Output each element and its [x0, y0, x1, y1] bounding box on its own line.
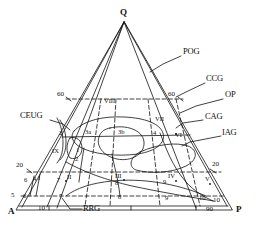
- internal-number-2a: 2: [59, 130, 62, 137]
- internal-number-7b: 7: [59, 193, 62, 200]
- internal-number-2b: 2: [75, 156, 78, 163]
- internal-number-10: 10: [199, 195, 206, 202]
- callout-label-ccg: CCG: [206, 74, 223, 83]
- callout-label-cag: CAG: [205, 112, 222, 121]
- internal-number-3a: 3a: [85, 129, 91, 136]
- leader-pog: [150, 56, 181, 72]
- internal-number-1: 1: [76, 147, 79, 154]
- field-ceug-envelope-2: [57, 118, 63, 163]
- field-label-iii: III: [115, 173, 122, 180]
- tick-label-left-20: 20: [16, 162, 23, 169]
- field-label-ii: II: [67, 174, 71, 181]
- gridline-q35: [62, 135, 190, 137]
- internal-number-7a: 7: [57, 177, 60, 184]
- vertex-label-a: A: [8, 207, 15, 216]
- tick-label-left-5: 5: [11, 192, 15, 199]
- tick-label-right-20: 20: [212, 161, 219, 168]
- triangle-outline: [16, 22, 232, 210]
- field-label-v: V: [205, 176, 210, 183]
- field-label-ix: IX: [52, 148, 59, 155]
- callout-label-pog: POG: [183, 47, 199, 56]
- radial-ap-90: [176, 99, 200, 206]
- internal-number-4: 4: [153, 130, 156, 137]
- leader-cag: [176, 120, 203, 128]
- field-label-i: I: [38, 175, 40, 182]
- tick-label-left-60: 60: [57, 91, 64, 98]
- callout-label-rrg: RRG: [83, 204, 100, 213]
- internal-number-6a: 6: [24, 177, 27, 184]
- tick-label-right-60: 60: [168, 91, 175, 98]
- tick-label-base-10: 10: [38, 205, 45, 212]
- radial-ap-10: [85, 99, 101, 206]
- internal-number-9a: 9: [163, 179, 166, 186]
- leader-iag: [182, 136, 221, 146]
- internal-number-4b: 4: [33, 176, 36, 183]
- vertex-label-q: Q: [120, 8, 127, 17]
- field-label-vi: VI: [175, 132, 182, 139]
- vertex-label-p: P: [236, 205, 242, 214]
- internal-number-8a: 8: [115, 180, 118, 187]
- leader-ccg: [176, 83, 205, 97]
- field-marker-dots: [65, 133, 211, 185]
- radial-ap-35: [110, 99, 116, 206]
- tick-label-base-90: 90: [206, 206, 213, 213]
- internal-number-8b: 8: [118, 194, 121, 201]
- field-label-vii: VII: [155, 116, 164, 123]
- callout-label-ceug: CEUG: [20, 111, 42, 120]
- callout-label-iag: IAG: [222, 128, 237, 137]
- tick-label-right-10: 10: [213, 197, 220, 204]
- field-label-viii: VIII: [104, 98, 115, 105]
- ternary-diagram-root: Q A P 60 60 20 20 5 6 10 90 10 2 3a 3b 4…: [0, 0, 256, 235]
- callout-label-op: OP: [225, 90, 235, 99]
- field-label-iv: IV: [168, 173, 175, 180]
- internal-number-9b: 9: [165, 195, 168, 202]
- internal-number-3b: 3b: [118, 129, 125, 136]
- rrg-leader: [62, 198, 82, 209]
- tick-label-left-6: 6: [23, 193, 27, 200]
- field-right-lobe: [131, 144, 195, 172]
